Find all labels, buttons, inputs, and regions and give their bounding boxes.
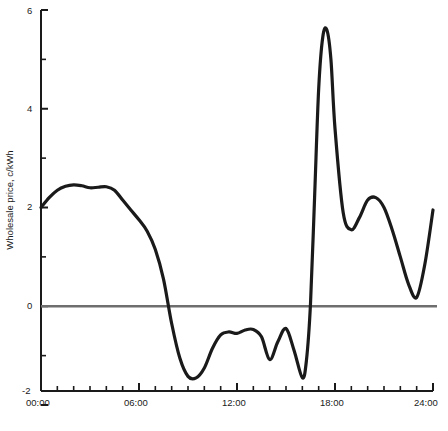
line-chart-plot: Wholesale price, c/kWh <box>0 0 448 431</box>
x-tick-label-0000: 00:00 <box>26 398 50 408</box>
x-tick-label-0600: 06:00 <box>124 398 148 408</box>
x-tick-label-1200: 12:00 <box>222 398 246 408</box>
price-series-line <box>41 28 433 379</box>
y-axis-title: Wholesale price, c/kWh <box>4 150 15 249</box>
chart-container: Wholesale price, c/kWh 6 4 2 0 -2 00:00 … <box>0 0 448 431</box>
y-tick-label-6: 6 <box>27 6 32 16</box>
x-axis-ticks <box>41 383 433 391</box>
x-tick-label-1800: 18:00 <box>320 398 344 408</box>
y-tick-label-4: 4 <box>27 104 32 114</box>
y-tick-label-0: 0 <box>27 301 32 311</box>
x-tick-label-2400: 24:00 <box>414 398 438 408</box>
y-tick-label-minus2: -2 <box>22 386 30 396</box>
y-tick-label-2: 2 <box>27 202 32 212</box>
